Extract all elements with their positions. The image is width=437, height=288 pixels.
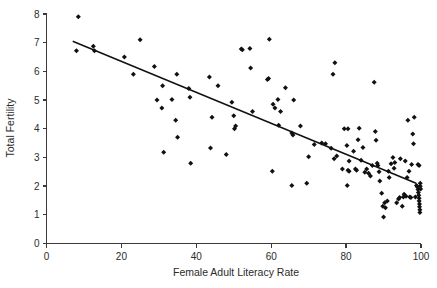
y-axis-ticks: 012345678 (34, 9, 47, 250)
data-point (372, 80, 377, 85)
data-point (267, 37, 272, 42)
y-tick-label: 5 (34, 95, 40, 106)
x-tick-label: 80 (341, 251, 353, 262)
data-point (250, 109, 255, 114)
data-point (169, 97, 174, 102)
data-point (381, 215, 386, 220)
y-tick-label: 2 (34, 181, 40, 192)
data-point (407, 169, 412, 174)
x-tick-label: 0 (44, 251, 50, 262)
data-point (345, 126, 350, 131)
data-point (248, 65, 253, 70)
data-point (332, 60, 337, 65)
data-point (187, 95, 192, 100)
data-point (122, 55, 127, 60)
data-point (330, 72, 335, 77)
data-point (345, 183, 350, 188)
scatter-chart-figure: 012345678 020406080100 Female Adult Lite… (0, 0, 437, 288)
data-point (412, 115, 417, 120)
data-point (298, 123, 303, 128)
data-point (210, 115, 215, 120)
x-axis-title: Female Adult Literacy Rate (173, 266, 299, 278)
y-tick-label: 4 (34, 123, 40, 134)
regression-line (73, 41, 416, 183)
data-point (312, 142, 317, 147)
data-point (357, 126, 362, 131)
x-tick-label: 60 (266, 251, 278, 262)
data-point (161, 150, 166, 155)
y-tick-label: 3 (34, 152, 40, 163)
data-point (344, 143, 349, 148)
data-point (91, 44, 96, 49)
data-point (374, 138, 379, 143)
data-point (76, 14, 81, 19)
data-point (175, 135, 180, 140)
y-tick-label: 8 (34, 9, 40, 20)
data-point (138, 37, 143, 42)
data-point (154, 98, 159, 103)
data-point (306, 154, 311, 159)
data-point (387, 175, 392, 180)
data-point (159, 106, 164, 111)
x-tick-label: 20 (116, 251, 128, 262)
data-point (224, 152, 229, 157)
data-point (351, 149, 356, 154)
y-axis-title: Total Fertility (4, 98, 16, 158)
data-point (389, 161, 394, 166)
data-point (229, 100, 234, 105)
data-point (392, 166, 397, 171)
data-point (291, 98, 296, 103)
x-tick-label: 100 (413, 251, 430, 262)
data-point (188, 161, 193, 166)
data-point (377, 178, 382, 183)
data-point (231, 113, 236, 118)
data-point (340, 166, 345, 171)
x-tick-label: 40 (191, 251, 203, 262)
y-tick-label: 7 (34, 37, 40, 48)
data-point (377, 169, 382, 174)
y-tick-label: 1 (34, 209, 40, 220)
data-point (379, 191, 384, 196)
data-point (207, 75, 212, 80)
data-point (283, 85, 288, 90)
data-point (160, 83, 165, 88)
data-point (74, 48, 79, 53)
data-point (208, 145, 213, 150)
data-point (356, 137, 361, 142)
data-point (278, 109, 283, 114)
chart-canvas: 012345678 020406080100 Female Adult Lite… (0, 0, 437, 288)
data-point (131, 72, 136, 77)
data-point (289, 183, 294, 188)
data-point (247, 46, 252, 51)
data-point (216, 83, 221, 88)
data-point (152, 64, 157, 69)
data-point (304, 181, 309, 186)
data-point (360, 145, 365, 150)
data-point (173, 118, 178, 123)
data-point (392, 160, 397, 165)
data-point (270, 169, 275, 174)
data-point (400, 204, 405, 209)
data-point (405, 118, 410, 123)
data-point (409, 162, 414, 167)
data-point (390, 155, 395, 160)
y-tick-label: 0 (34, 238, 40, 249)
data-point (411, 141, 416, 146)
data-point (174, 72, 179, 77)
data-point (403, 158, 408, 163)
x-axis-ticks: 020406080100 (44, 244, 430, 262)
data-point (373, 129, 378, 134)
scatter-points (74, 14, 423, 219)
data-point (275, 97, 280, 102)
data-point (347, 158, 352, 163)
y-tick-label: 6 (34, 66, 40, 77)
data-point (417, 210, 422, 215)
data-point (410, 131, 415, 136)
data-point (398, 156, 403, 161)
